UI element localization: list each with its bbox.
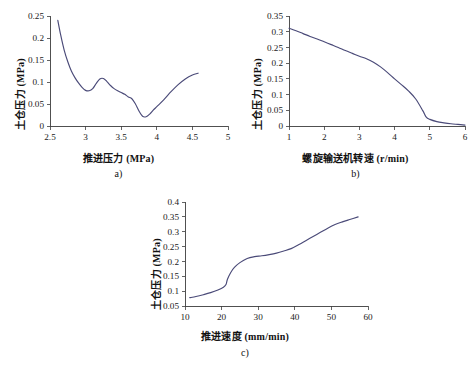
x-axis-title-a: 推进压力 (MPa) xyxy=(0,150,237,165)
y-tick-label: 0.35 xyxy=(267,11,283,21)
y-tick-label: 0.35 xyxy=(163,212,179,222)
chart-panel-c: 1020304050600.050.10.150.20.250.30.350.4… xyxy=(100,190,390,379)
x-tick-label: 5 xyxy=(226,132,231,142)
figure-root: 2.533.544.5500.050.10.150.20.25 推进压力 (MP… xyxy=(0,0,474,379)
y-tick-label: 0.4 xyxy=(168,197,180,207)
x-tick-label: 10 xyxy=(180,312,190,322)
y-tick-label: 0.25 xyxy=(163,242,179,252)
x-tick-label: 1 xyxy=(287,132,292,142)
x-tick-label: 3 xyxy=(83,132,88,142)
chart-svg-b: 12345600.050.10.150.20.250.30.35 xyxy=(237,2,474,152)
panel-caption-b: b) xyxy=(237,168,474,179)
y-tick-label: 0.1 xyxy=(272,90,284,100)
y-tick-label: 0.05 xyxy=(267,105,283,115)
chart-panel-b: 12345600.050.10.150.20.250.30.35 螺旋输送机转速… xyxy=(237,2,474,190)
y-tick-label: 0 xyxy=(39,121,44,131)
data-curve xyxy=(289,28,465,125)
x-tick-label: 4 xyxy=(392,132,397,142)
x-tick-label: 20 xyxy=(217,312,227,322)
y-axis-title-c: 土仓压力 (MPa) xyxy=(148,238,163,310)
y-tick-label: 0.3 xyxy=(168,227,180,237)
x-tick-label: 60 xyxy=(363,312,373,322)
y-tick-label: 0.2 xyxy=(33,33,45,43)
x-tick-label: 2 xyxy=(322,132,327,142)
y-tick-label: 0.15 xyxy=(267,74,283,84)
y-tick-label: 0.2 xyxy=(272,58,284,68)
y-tick-label: 0.15 xyxy=(28,55,44,65)
y-tick-label: 0.1 xyxy=(33,77,45,87)
x-tick-label: 4.5 xyxy=(187,132,199,142)
y-tick-label: 0.3 xyxy=(272,27,284,37)
y-tick-label: 0.25 xyxy=(267,43,283,53)
y-tick-label: 0 xyxy=(278,121,283,131)
panel-caption-c: c) xyxy=(100,347,390,358)
x-axis-title-b: 螺旋输送机转速 (r/min) xyxy=(237,150,474,165)
panel-caption-a: a) xyxy=(0,168,237,179)
x-axis-title-c: 推进速度 (mm/min) xyxy=(100,328,390,343)
x-tick-label: 3.5 xyxy=(115,132,127,142)
y-tick-label: 0.05 xyxy=(163,301,179,311)
y-tick-label: 0.25 xyxy=(28,11,44,21)
x-tick-label: 50 xyxy=(327,312,337,322)
chart-svg-a: 2.533.544.5500.050.10.150.20.25 xyxy=(0,2,237,152)
chart-panel-a: 2.533.544.5500.050.10.150.20.25 推进压力 (MP… xyxy=(0,2,237,190)
y-tick-label: 0.2 xyxy=(168,257,180,267)
x-tick-label: 4 xyxy=(155,132,160,142)
data-curve xyxy=(190,217,358,298)
x-tick-label: 3 xyxy=(357,132,362,142)
x-tick-label: 2.5 xyxy=(44,132,56,142)
data-curve xyxy=(58,20,198,117)
x-tick-label: 6 xyxy=(463,132,468,142)
y-tick-label: 0.05 xyxy=(28,99,44,109)
y-axis-title-b: 土仓压力 (MPa) xyxy=(249,58,264,130)
chart-svg-c: 1020304050600.050.10.150.20.250.30.350.4 xyxy=(100,190,390,330)
x-tick-label: 30 xyxy=(254,312,264,322)
y-axis-title-a: 土仓压力 (MPa) xyxy=(12,58,27,130)
y-tick-label: 0.1 xyxy=(168,286,180,296)
x-tick-label: 5 xyxy=(428,132,433,142)
x-tick-label: 40 xyxy=(290,312,300,322)
y-tick-label: 0.15 xyxy=(163,271,179,281)
